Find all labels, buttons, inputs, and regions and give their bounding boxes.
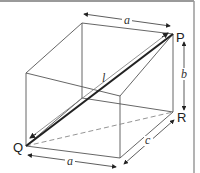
label-r: R	[177, 110, 186, 125]
label-a-top: a	[124, 13, 130, 27]
diagonal-arrow-p	[162, 33, 168, 37]
cuboid-diagram: P Q R l a b a c	[0, 0, 200, 173]
label-p: P	[176, 30, 185, 45]
label-q: Q	[13, 140, 23, 155]
label-a-bottom: a	[67, 154, 73, 168]
label-c: c	[145, 133, 151, 147]
label-l: l	[102, 71, 106, 85]
label-b: b	[181, 67, 187, 81]
diagonal-length-line	[30, 33, 168, 138]
diagram-frame: P Q R l a b a c	[0, 0, 200, 173]
diagonal-arrow-q	[30, 134, 36, 138]
